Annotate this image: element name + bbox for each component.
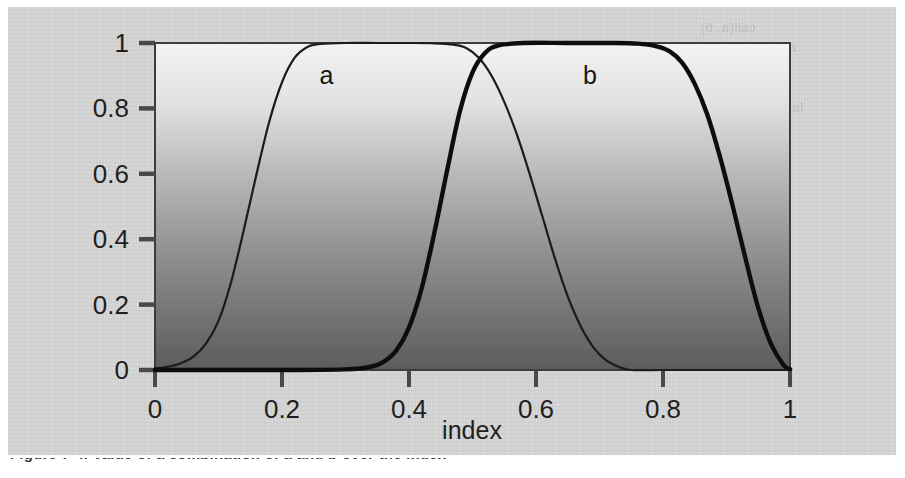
x-axis-ticks [155,370,790,387]
curve-label-b: b [583,61,597,89]
y-axis-ticks [139,43,155,370]
chart-plot: 00.20.40.60.81 00.20.40.60.81 index ab [8,7,896,455]
x-tick-label: 0.2 [264,394,300,424]
figure-page: call(a, b)call(a, b, c) + f.p. ind.func … [0,0,905,478]
y-tick-label: 0.4 [93,224,129,254]
y-tick-label: 0.6 [93,159,129,189]
x-tick-label: 0.8 [645,394,681,424]
x-tick-label: 0.4 [391,394,427,424]
y-tick-label: 1 [115,28,129,58]
y-tick-label: 0.2 [93,290,129,320]
y-tick-label: 0.8 [93,93,129,123]
figure-caption-clipped: Figure 7-4. Value of a combination of a … [8,458,896,478]
figure-caption-text: Figure 7-4. Value of a combination of a … [10,458,446,462]
x-tick-label: 1 [783,394,797,424]
y-axis-tick-labels: 00.20.40.60.81 [93,28,129,385]
y-tick-label: 0 [115,355,129,385]
x-tick-label: 0.6 [518,394,554,424]
x-tick-label: 0 [148,394,162,424]
x-axis-title: index [442,416,502,444]
curve-label-a: a [319,61,333,89]
